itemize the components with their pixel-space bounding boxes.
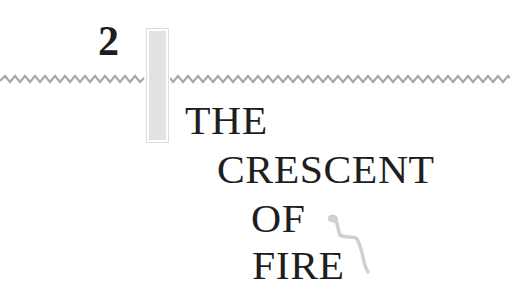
chapter-title-line: THE [185, 99, 268, 143]
chapter-title-line: CRESCENT [217, 148, 435, 192]
chapter-title-line: OF [251, 197, 305, 241]
chapter-number: 2 [98, 17, 119, 65]
zigzag-rule-right [170, 72, 510, 86]
decorative-squiggle-icon [322, 212, 376, 276]
vertical-accent-bar [146, 28, 169, 143]
zigzag-rule-left [0, 72, 146, 86]
vertical-accent-bar-fill [149, 31, 166, 140]
